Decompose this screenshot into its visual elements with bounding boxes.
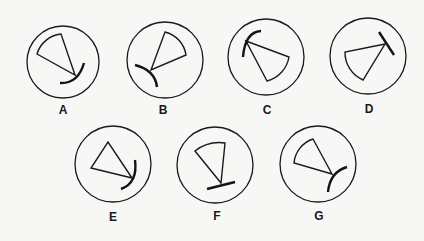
- label-c: C: [263, 103, 272, 117]
- circle-d: [330, 18, 406, 94]
- option-g[interactable]: G: [280, 126, 356, 223]
- label-b: B: [159, 103, 168, 117]
- option-a[interactable]: A: [27, 26, 99, 117]
- sector-d-icon: [345, 44, 385, 80]
- straight-bar-d-icon: [379, 32, 394, 55]
- option-d[interactable]: D: [330, 18, 406, 116]
- figure-canvas: A B C D E F G: [0, 0, 424, 241]
- option-f[interactable]: F: [177, 127, 253, 223]
- sector-f-icon: [195, 143, 225, 183]
- label-e: E: [109, 210, 117, 224]
- circle-g: [280, 126, 356, 202]
- label-g: G: [314, 209, 323, 223]
- circle-e: [75, 126, 151, 202]
- option-c[interactable]: C: [228, 19, 304, 117]
- circle-c: [228, 19, 304, 95]
- sector-g-icon: [294, 139, 332, 174]
- label-a: A: [59, 103, 68, 117]
- option-e[interactable]: E: [75, 126, 151, 224]
- sector-c-icon: [246, 41, 289, 81]
- circle-a: [27, 26, 99, 98]
- option-b[interactable]: B: [127, 22, 203, 117]
- sector-b-icon: [151, 32, 186, 70]
- sector-a-icon: [37, 34, 75, 75]
- label-d: D: [365, 102, 374, 116]
- triangle-e-icon: [91, 142, 132, 178]
- label-f: F: [213, 209, 220, 223]
- circle-f: [177, 127, 253, 203]
